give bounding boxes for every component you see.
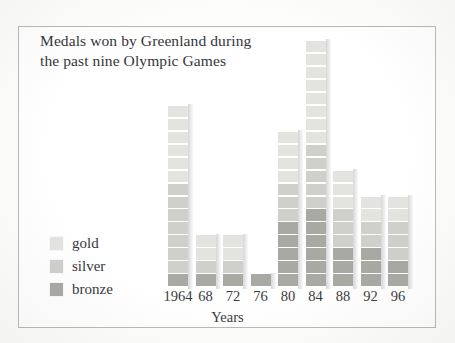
- medal-cell-gold: [306, 54, 326, 66]
- medal-cell-gold: [223, 248, 243, 260]
- medal-cell-gold: [168, 106, 188, 118]
- medal-cell-gold: [278, 158, 298, 170]
- medal-cell-gold: [223, 235, 243, 247]
- medal-cell-gold: [306, 106, 326, 118]
- medal-cell-bronze: [278, 261, 298, 273]
- bar-68: [196, 234, 216, 286]
- medal-cell-bronze: [361, 274, 381, 286]
- medal-cell-gold: [333, 184, 353, 196]
- legend-item-silver: silver: [50, 255, 113, 278]
- medal-cell-bronze: [333, 248, 353, 260]
- bar-1964: [168, 104, 188, 286]
- medal-cell-silver: [388, 235, 408, 247]
- medal-cell-silver: [168, 184, 188, 196]
- medal-cell-gold: [361, 197, 381, 209]
- medal-cell-silver: [168, 261, 188, 273]
- medal-cell-silver: [196, 261, 216, 273]
- medal-cell-bronze: [388, 274, 408, 286]
- medal-cell-bronze: [196, 274, 216, 286]
- medal-cell-bronze: [278, 248, 298, 260]
- medal-cell-bronze: [223, 274, 243, 286]
- medal-cell-silver: [306, 158, 326, 170]
- medal-cell-bronze: [306, 261, 326, 273]
- bar-72: [223, 234, 243, 286]
- medal-cell-bronze: [278, 235, 298, 247]
- legend-swatch-gold: [50, 237, 63, 250]
- medal-cell-gold: [168, 132, 188, 144]
- x-tick-80: 80: [281, 288, 296, 305]
- legend-label: bronze: [72, 282, 113, 297]
- x-tick-68: 68: [198, 288, 213, 305]
- medal-cell-silver: [168, 197, 188, 209]
- legend-swatch-silver: [50, 260, 63, 273]
- medal-cell-silver: [168, 209, 188, 221]
- legend-item-bronze: bronze: [50, 278, 113, 301]
- medal-cell-bronze: [278, 274, 298, 286]
- medal-cell-silver: [278, 197, 298, 209]
- medal-cell-bronze: [361, 261, 381, 273]
- x-axis-title: Years: [0, 309, 455, 326]
- medal-cell-gold: [333, 197, 353, 209]
- bar-96: [388, 195, 408, 286]
- medal-cell-gold: [168, 119, 188, 131]
- medal-cell-bronze: [251, 274, 271, 286]
- medal-cell-gold: [196, 235, 216, 247]
- medal-cell-gold: [306, 132, 326, 144]
- medal-cell-silver: [388, 222, 408, 234]
- bar-84: [306, 39, 326, 286]
- medal-cell-silver: [168, 235, 188, 247]
- medal-cell-gold: [306, 41, 326, 53]
- plot-area: [160, 36, 412, 286]
- medal-cell-silver: [306, 145, 326, 157]
- medal-cell-silver: [278, 184, 298, 196]
- medal-cell-bronze: [333, 261, 353, 273]
- legend-item-gold: gold: [50, 232, 113, 255]
- medal-cell-bronze: [306, 274, 326, 286]
- medal-cell-silver: [168, 222, 188, 234]
- medal-cell-silver: [333, 222, 353, 234]
- medal-cell-gold: [388, 209, 408, 221]
- medal-cell-gold: [333, 171, 353, 183]
- legend-label: gold: [72, 236, 99, 251]
- medal-cell-bronze: [278, 222, 298, 234]
- bar-92: [361, 195, 381, 286]
- medal-cell-bronze: [306, 235, 326, 247]
- medal-cell-gold: [168, 158, 188, 170]
- x-axis-tick-labels: 19646872768084889296: [160, 288, 416, 308]
- medal-cell-silver: [361, 222, 381, 234]
- medal-cell-silver: [278, 209, 298, 221]
- medal-cell-gold: [306, 119, 326, 131]
- x-tick-96: 96: [391, 288, 406, 305]
- medal-cell-bronze: [333, 274, 353, 286]
- medal-cell-bronze: [306, 209, 326, 221]
- medal-cell-gold: [361, 209, 381, 221]
- bar-76: [251, 273, 271, 286]
- medal-cell-silver: [388, 248, 408, 260]
- medal-cell-silver: [361, 235, 381, 247]
- medal-cell-gold: [278, 132, 298, 144]
- legend-swatch-bronze: [50, 283, 63, 296]
- x-tick-84: 84: [308, 288, 323, 305]
- medal-cell-bronze: [361, 248, 381, 260]
- legend-label: silver: [72, 259, 105, 274]
- medal-cell-gold: [306, 67, 326, 79]
- x-tick-76: 76: [253, 288, 268, 305]
- chart-legend: goldsilverbronze: [50, 232, 113, 301]
- medal-cell-silver: [306, 184, 326, 196]
- medal-cell-silver: [306, 197, 326, 209]
- x-tick-1964: 1964: [164, 288, 193, 305]
- medal-cell-bronze: [306, 222, 326, 234]
- bar-80: [278, 130, 298, 286]
- x-tick-92: 92: [363, 288, 378, 305]
- medal-cell-gold: [168, 145, 188, 157]
- medal-cell-silver: [306, 171, 326, 183]
- medal-cell-gold: [278, 145, 298, 157]
- medal-cell-bronze: [388, 261, 408, 273]
- x-tick-72: 72: [226, 288, 241, 305]
- x-tick-88: 88: [336, 288, 351, 305]
- medal-cell-bronze: [306, 248, 326, 260]
- medal-cell-gold: [388, 197, 408, 209]
- medal-cell-silver: [333, 235, 353, 247]
- medal-cell-silver: [168, 248, 188, 260]
- medal-cell-gold: [306, 93, 326, 105]
